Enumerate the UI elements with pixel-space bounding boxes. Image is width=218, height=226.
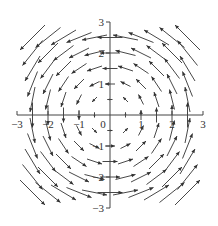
vector-arrow xyxy=(61,92,66,107)
vector-arrow xyxy=(167,136,177,156)
vector-arrow xyxy=(152,77,162,92)
y-tick-label: 2 xyxy=(99,47,105,59)
vector-arrow xyxy=(149,154,164,169)
axes xyxy=(17,22,203,208)
vector-arrow xyxy=(118,66,133,71)
vector-arrow xyxy=(175,25,200,50)
vector-arrow xyxy=(45,90,51,110)
vector-arrow xyxy=(28,134,38,159)
vector-arrow xyxy=(129,187,154,197)
x-tick-label: −3 xyxy=(11,118,23,130)
vector-arrow xyxy=(154,92,159,107)
vector-arrow xyxy=(167,74,177,94)
vector-arrow xyxy=(149,61,164,76)
vector-arrow xyxy=(20,25,45,50)
vector-arrow xyxy=(74,141,84,151)
vector-arrow xyxy=(123,128,128,133)
vector-arrow xyxy=(54,46,74,61)
vector-arrow xyxy=(41,152,56,172)
vector-arrow xyxy=(121,82,131,87)
vector-arrow xyxy=(182,72,192,97)
y-tick-label: 1 xyxy=(99,78,105,90)
vector-arrow xyxy=(77,95,82,105)
x-tick-label: 0 xyxy=(100,118,106,130)
vector-arrow xyxy=(147,46,167,61)
vector-arrow xyxy=(59,139,69,154)
y-tick-label: −2 xyxy=(92,171,104,183)
vector-arrow xyxy=(92,97,97,102)
vector-field-plot: −3−2−10123−3−2−1123 xyxy=(0,0,218,226)
vector-arrow xyxy=(67,33,92,43)
vector-arrow xyxy=(20,180,45,205)
vector-arrow xyxy=(184,87,190,112)
vector-arrow xyxy=(131,172,151,182)
vector-arrow xyxy=(152,139,162,154)
vector-arrow xyxy=(154,123,159,138)
y-tick-label: −3 xyxy=(92,202,104,214)
vector-arrow xyxy=(59,77,69,92)
vector-arrow xyxy=(147,170,167,185)
vector-arrow xyxy=(82,35,107,41)
y-tick-label: −1 xyxy=(92,140,104,152)
vector-arrow xyxy=(116,50,136,56)
vector-arrow xyxy=(123,97,128,102)
vector-arrow xyxy=(136,79,146,89)
x-tick-label: 3 xyxy=(200,118,206,130)
x-tick-label: −1 xyxy=(73,118,85,130)
vector-arrow xyxy=(72,157,87,167)
vector-arrow xyxy=(175,180,200,205)
vector-arrow xyxy=(165,152,180,172)
vector-arrow xyxy=(43,74,53,94)
vector-arrow xyxy=(134,64,149,74)
vector-arrow xyxy=(136,141,146,151)
vector-arrow xyxy=(165,59,180,79)
vector-arrow xyxy=(92,128,97,133)
vector-arrow xyxy=(134,157,149,167)
vector-arrow xyxy=(30,118,36,143)
vector-arrow xyxy=(69,172,89,182)
x-tick-label: 2 xyxy=(169,118,175,130)
vector-arrow xyxy=(87,66,102,71)
vector-arrow xyxy=(41,59,56,79)
vector-arrow xyxy=(69,48,89,58)
vector-arrow xyxy=(56,61,71,76)
vector-arrow xyxy=(61,123,66,138)
vector-arrow xyxy=(121,144,131,149)
vector-arrow xyxy=(54,170,74,185)
vector-arrow xyxy=(139,95,144,105)
y-tick-label: 3 xyxy=(99,16,105,28)
vector-arrow xyxy=(72,64,87,74)
vector-arrow xyxy=(87,159,102,164)
vector-arrow xyxy=(131,48,151,58)
vector-arrow xyxy=(113,189,138,195)
x-tick-label: −2 xyxy=(42,118,54,130)
vector-arrow xyxy=(118,159,133,164)
vector-arrow xyxy=(43,136,53,156)
vector-arrow xyxy=(74,79,84,89)
vector-arrow xyxy=(56,154,71,169)
x-tick-label: 1 xyxy=(138,118,144,130)
